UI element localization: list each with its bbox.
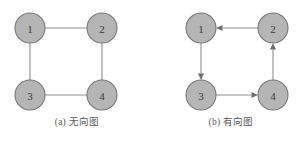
arrowhead-3-4 xyxy=(252,92,259,98)
panel-undirected-graph: 1234 (a) 无向图 xyxy=(0,0,154,143)
node-label-4: 4 xyxy=(99,90,105,102)
node-label-2: 2 xyxy=(270,23,276,35)
undirected-graph-canvas: 1234 xyxy=(0,0,154,118)
arrowhead-4-2 xyxy=(270,43,276,50)
caption-directed-graph: (b) 有向图 xyxy=(154,114,308,128)
node-label-1: 1 xyxy=(27,23,33,35)
panel-directed-graph: 1234 (b) 有向图 xyxy=(154,0,308,143)
caption-undirected-graph: (a) 无向图 xyxy=(0,114,154,128)
arrowhead-1-3 xyxy=(198,74,204,81)
node-label-3: 3 xyxy=(27,90,33,102)
node-label-3: 3 xyxy=(198,90,204,102)
node-label-2: 2 xyxy=(99,23,105,35)
directed-graph-canvas: 1234 xyxy=(154,0,308,118)
graph-figure: 1234 (a) 无向图 1234 (b) 有向图 xyxy=(0,0,308,143)
node-label-1: 1 xyxy=(198,23,204,35)
arrowhead-2-1 xyxy=(216,25,223,31)
node-label-4: 4 xyxy=(270,90,276,102)
